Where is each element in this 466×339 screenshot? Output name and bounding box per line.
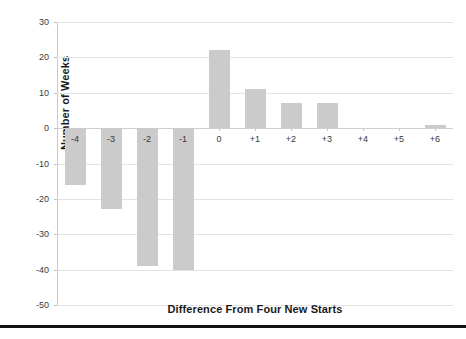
y-tick-label: -10 [1,160,49,169]
y-tick-label: 30 [1,18,49,27]
bar [245,89,266,128]
x-tick-label: -1 [165,134,201,144]
y-tick-mark [54,164,57,165]
x-tick-mark [147,128,148,131]
y-tick-label: -50 [1,301,49,310]
x-tick-label: +3 [309,134,345,144]
x-tick-mark [435,128,436,131]
y-tick-mark [54,22,57,23]
y-tick-label: 20 [1,53,49,62]
x-axis-title: Difference From Four New Starts [57,303,453,315]
x-tick-label: -3 [93,134,129,144]
x-tick-mark [399,128,400,131]
x-tick-mark [255,128,256,131]
plot-area: 3020100-10-20-30-40-50 -4-3-2-10+1+2+3+4… [57,22,453,305]
y-tick-mark [54,270,57,271]
x-tick-mark [111,128,112,131]
x-tick-mark [219,128,220,131]
x-tick-label: +1 [237,134,273,144]
x-tick-label: +2 [273,134,309,144]
gridline [57,57,453,58]
x-tick-mark [327,128,328,131]
x-tick-label: +6 [417,134,453,144]
y-tick-label: 0 [1,124,49,133]
figure-container: Number of Weeks 3020100-10-20-30-40-50 -… [0,0,466,339]
gridline [57,270,453,271]
footer-divider [0,325,466,328]
x-tick-label: -4 [57,134,93,144]
bar [209,50,230,128]
y-tick-mark [54,234,57,235]
x-tick-mark [291,128,292,131]
x-tick-label: +4 [345,134,381,144]
y-tick-label: -40 [1,266,49,275]
y-tick-mark [54,128,57,129]
x-tick-label: -2 [129,134,165,144]
bar [137,128,158,266]
x-tick-mark [363,128,364,131]
y-tick-mark [54,93,57,94]
bar [281,103,302,128]
x-tick-label: +5 [381,134,417,144]
x-tick-mark [75,128,76,131]
y-tick-mark [54,57,57,58]
bar [173,128,194,270]
y-tick-mark [54,199,57,200]
x-tick-mark [183,128,184,131]
gridline [57,234,453,235]
x-tick-label: 0 [201,134,237,144]
y-tick-label: -20 [1,195,49,204]
gridline [57,22,453,23]
y-tick-label: 10 [1,89,49,98]
bar [317,103,338,128]
footer-caption [36,329,456,339]
y-tick-label: -30 [1,230,49,239]
